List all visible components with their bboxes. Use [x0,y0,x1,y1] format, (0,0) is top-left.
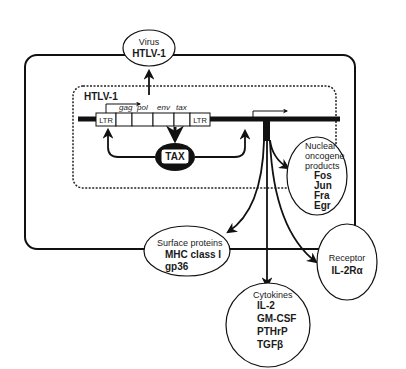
gene-tax-label: tax [176,103,188,112]
gene-pol-box [132,113,153,126]
cytokines-title: Cytokines [253,290,293,300]
gene-env-box [153,113,174,126]
receptor-title: Receptor [329,253,366,263]
surface-protein-mhc: MHC class I [165,249,221,260]
ltr-left-label: LTR [99,116,113,125]
virus-label-line1: Virus [139,37,160,47]
gene-tax-box [174,113,190,126]
nuclear-oncogene-arrow [270,140,288,168]
tax-protein-label: TAX [165,151,185,162]
surface-protein-gp36: gp36 [165,261,189,272]
cellular-transcription-arrow [253,111,287,117]
ltr-right-label: LTR [193,116,207,125]
nuclear-oncogene-line1: Nuclear [305,141,336,151]
cytokine-il2: IL-2 [257,300,275,311]
htlv1-tax-diagram: LTR LTR gag pol env tax HTLV-1 Virus HTL… [0,0,406,369]
cytokine-pthrp: PTHrP [257,326,288,337]
surface-protein-arrow [228,141,264,232]
gene-gag-box [116,113,132,126]
cytokine-tgfb: TGFβ [257,339,283,350]
tax-to-cellular-promoter-arrow [195,131,245,157]
cytokine-gmcsf: GM-CSF [257,313,296,324]
surface-proteins-title: Surface proteins [157,238,223,248]
oncogene-egr: Egr [314,200,331,211]
gene-env-label: env [157,103,171,112]
cellular-gene-bundle [263,119,270,141]
virus-label-line2: HTLV-1 [132,48,166,59]
nuclear-oncogene-line2: oncogene [305,151,345,161]
receptor-il2ra: IL-2Rα [331,265,363,276]
provirus-label: HTLV-1 [84,91,118,102]
tax-to-ltr-arrow [108,130,155,157]
